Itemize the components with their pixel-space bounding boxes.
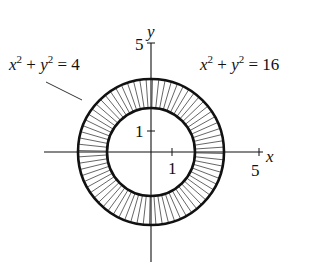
x-tick-label-5: 5 xyxy=(251,161,260,180)
hatch-line xyxy=(146,79,148,108)
hatch-line xyxy=(195,157,224,160)
outer-circle-equation: x2 + y2 = 16 xyxy=(199,53,279,74)
y-tick-label-5: 5 xyxy=(135,35,144,54)
hatch-line xyxy=(154,196,156,225)
hatch-line xyxy=(158,195,162,224)
hatch-line xyxy=(152,79,153,108)
x-tick-label-1: 1 xyxy=(168,159,177,178)
inner-circle-equation: x2 + y2 = 4 xyxy=(8,53,80,74)
hatch-line xyxy=(195,147,224,149)
hatch-line xyxy=(143,196,146,225)
hatch-line xyxy=(79,159,108,163)
hatch-line xyxy=(194,141,223,145)
hatch-line xyxy=(83,126,110,136)
hatch-line xyxy=(78,155,107,157)
leader-line xyxy=(46,82,82,100)
hatch-line xyxy=(78,144,107,147)
x-axis-label: x xyxy=(265,147,274,166)
hatch-line xyxy=(78,151,107,152)
y-axis-label: y xyxy=(145,22,155,41)
hatch-line xyxy=(121,85,133,112)
hatch-line xyxy=(125,193,135,220)
svg-text:x2 + y2 = 16: x2 + y2 = 16 xyxy=(199,53,279,74)
hatch-line xyxy=(140,80,144,109)
hatch-line xyxy=(169,192,181,219)
hatch-line xyxy=(150,196,151,225)
hatch-line xyxy=(84,170,111,182)
annulus-diagram: 1 5 1 5 x y x2 + y2 = 4 x2 + y2 = 16 xyxy=(0,0,313,271)
hatch-line xyxy=(167,84,177,111)
hatch-line xyxy=(192,168,219,178)
svg-text:x2 + y2 = 4: x2 + y2 = 4 xyxy=(8,53,80,74)
y-tick-label-1: 1 xyxy=(135,122,144,141)
hatch-line xyxy=(191,122,218,134)
hatch-line xyxy=(156,79,159,108)
hatch-line xyxy=(195,153,224,154)
